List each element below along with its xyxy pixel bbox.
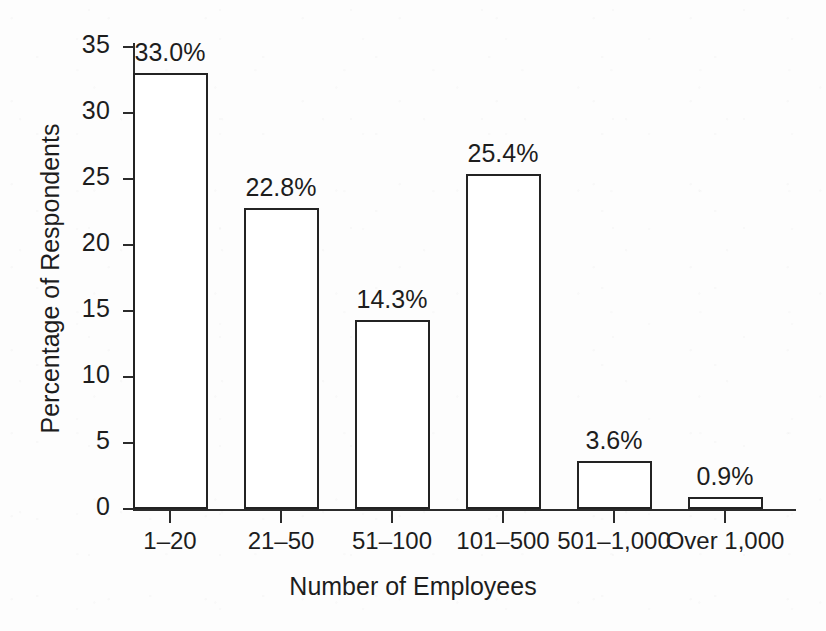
bar [133,73,208,509]
x-axis-tick-label: 51–100 [352,527,432,555]
bar-value-label: 22.8% [246,173,317,202]
bar-value-label: 25.4% [468,139,539,168]
x-axis-tick-mark [613,511,615,523]
bar [688,497,763,509]
bar-chart-figure: 05101520253035 33.0%22.8%14.3%25.4%3.6%0… [0,0,826,631]
x-axis-tick-mark [391,511,393,523]
bar-value-label: 14.3% [357,285,428,314]
bar [244,208,319,509]
x-axis-tick-label: Over 1,000 [666,527,785,555]
y-axis-tick-mark [123,46,134,48]
x-axis-tick-mark [169,511,171,523]
x-axis-tick-label: 501–1,000 [557,527,670,555]
y-axis-tick-label: 20 [82,228,110,257]
bar [577,461,652,509]
y-axis-tick-label: 30 [82,96,110,125]
bar-value-label: 33.0% [135,38,206,67]
bar-value-label: 3.6% [586,426,643,455]
x-axis-title: Number of Employees [0,572,826,601]
x-axis-tick-mark [502,511,504,523]
x-axis-tick-label: 21–50 [248,527,315,555]
y-axis-tick-label: 15 [82,294,110,323]
bar-value-label: 0.9% [697,462,754,491]
y-axis-tick-label: 25 [82,162,110,191]
x-axis-tick-label: 1–20 [143,527,196,555]
bar [466,174,541,509]
y-axis-tick-label: 10 [82,360,110,389]
x-axis-tick-mark [280,511,282,523]
x-axis-tick-mark [724,511,726,523]
x-axis-line [133,509,796,511]
y-axis-title: Percentage of Respondents [36,59,65,499]
bar [355,320,430,509]
y-axis-tick-label: 0 [96,492,110,521]
y-axis-tick-label: 35 [82,30,110,59]
y-axis-tick-label: 5 [96,426,110,455]
x-axis-tick-label: 101–500 [456,527,549,555]
